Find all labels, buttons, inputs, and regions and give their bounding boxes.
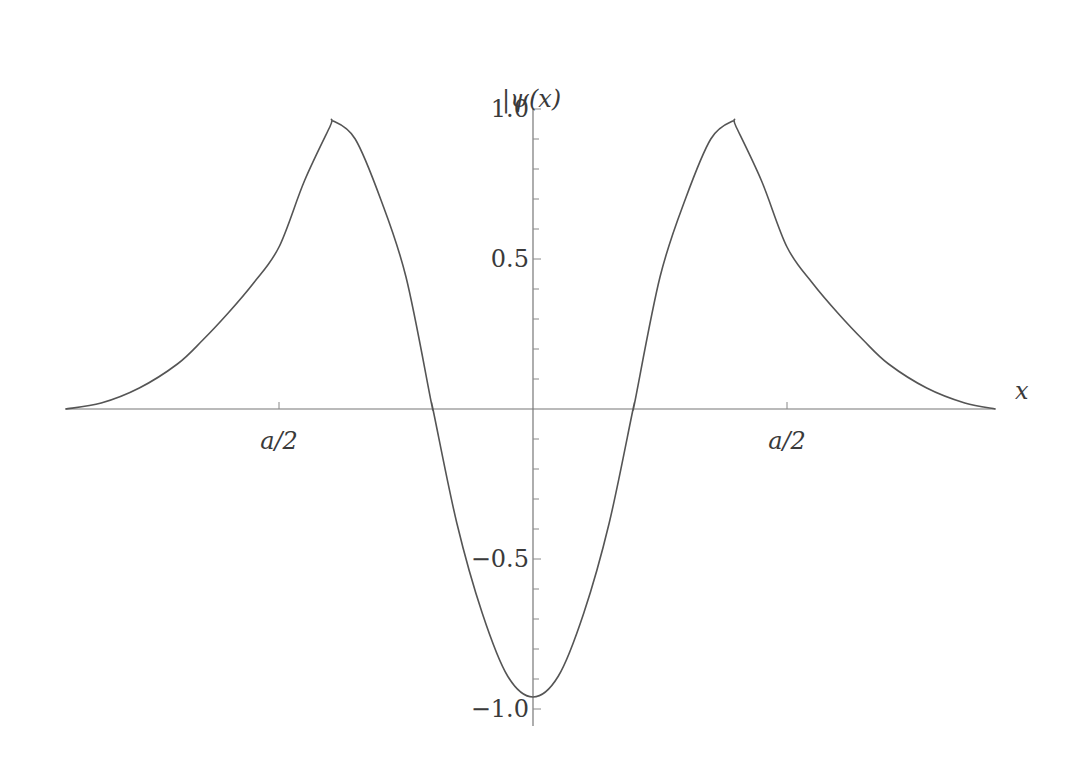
x-tick-label: a/2 xyxy=(260,427,298,455)
y-axis-label: |ψ(x) xyxy=(502,85,561,114)
x-tick-label: a/2 xyxy=(768,427,806,455)
axes: 1.00.5−0.5−1.0 a/2a/2 xyxy=(65,95,996,726)
x-axis-label: x xyxy=(1015,377,1029,405)
wavefunction-chart: 1.00.5−0.5−1.0 a/2a/2 |ψ(x) x xyxy=(0,0,1084,759)
y-tick-label: −0.5 xyxy=(471,545,529,573)
y-tick-label: 0.5 xyxy=(491,245,529,273)
wavefunction-curve xyxy=(66,119,996,697)
y-tick-label: −1.0 xyxy=(471,695,529,723)
